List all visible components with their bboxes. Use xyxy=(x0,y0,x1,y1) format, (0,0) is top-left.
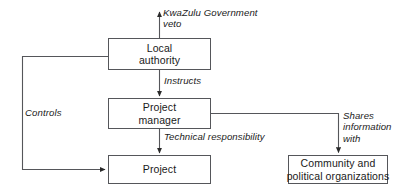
node-community-line1: Community and xyxy=(301,157,376,170)
node-project-line1: Project xyxy=(143,163,176,176)
diagram-canvas: Local authority Project manager Project … xyxy=(0,0,405,193)
edge-label-shares-information: Shares information with xyxy=(343,110,392,144)
edge-label-veto: KwaZulu Government veto xyxy=(163,7,258,30)
edge-label-technical-responsibility-line1: Technical responsibility xyxy=(164,131,265,142)
edge-label-instructs-line1: Instructs xyxy=(164,75,201,86)
node-project-manager[interactable]: Project manager xyxy=(108,98,211,129)
node-project-manager-line2: manager xyxy=(138,114,180,127)
node-local-authority-line1: Local xyxy=(147,42,173,55)
edge-label-instructs: Instructs xyxy=(164,75,201,86)
node-community-and-political-organizations[interactable]: Community and political organizations xyxy=(288,155,388,184)
edge-label-shares-information-line3: with xyxy=(343,133,392,144)
edge-label-controls-line1: Controls xyxy=(25,107,62,118)
edge-label-technical-responsibility: Technical responsibility xyxy=(164,131,265,142)
edge-label-veto-line1: KwaZulu Government xyxy=(163,7,258,18)
edge-label-veto-line2: veto xyxy=(163,18,258,29)
edge-label-shares-information-line2: information xyxy=(343,121,392,132)
edge-label-shares-information-line1: Shares xyxy=(343,110,392,121)
edge-label-controls: Controls xyxy=(25,107,62,118)
node-project-manager-line1: Project xyxy=(143,101,176,114)
node-community-line2: political organizations xyxy=(287,170,390,183)
node-local-authority-line2: authority xyxy=(139,54,180,67)
node-project[interactable]: Project xyxy=(108,155,211,184)
node-local-authority[interactable]: Local authority xyxy=(108,38,211,70)
